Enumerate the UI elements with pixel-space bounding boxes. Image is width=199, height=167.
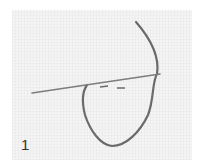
step-number: 1 [21, 136, 29, 153]
needle [32, 74, 160, 93]
stitch-illustration [0, 0, 199, 167]
needle-eye-stitch [100, 86, 108, 87]
